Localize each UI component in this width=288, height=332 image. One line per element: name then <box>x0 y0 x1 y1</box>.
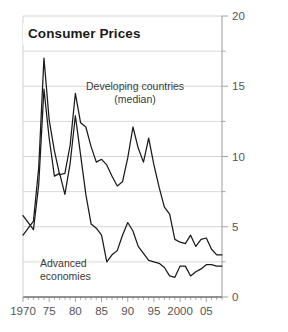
y-axis-tick-label: 5 <box>232 221 238 233</box>
y-axis-ticks <box>222 16 228 297</box>
annotation-developing-line2: (median) <box>86 93 184 106</box>
x-axis-tick-label: 05 <box>200 305 213 317</box>
chart-canvas <box>0 0 288 332</box>
consumer-prices-chart: Consumer Prices Developing countries (me… <box>0 0 288 332</box>
x-axis-ticks <box>23 297 222 302</box>
annotation-developing-countries: Developing countries (median) <box>86 80 184 105</box>
y-axis-tick-label: 0 <box>232 291 238 303</box>
annotation-developing-line1: Developing countries <box>86 80 184 92</box>
page-title: Consumer Prices <box>28 26 141 41</box>
y-axis-tick-label: 20 <box>232 10 245 22</box>
x-axis-tick-label: 90 <box>121 305 134 317</box>
annotation-advanced-line1: Advanced <box>40 257 87 269</box>
x-axis-tick-label: 80 <box>69 305 82 317</box>
x-axis-tick-label: 85 <box>95 305 108 317</box>
x-axis-tick-label: 75 <box>43 305 56 317</box>
y-axis-tick-label: 10 <box>232 151 245 163</box>
annotation-advanced-economies: Advanced economies <box>40 257 91 282</box>
x-axis-tick-label: 95 <box>148 305 161 317</box>
y-axis-tick-label: 15 <box>232 80 245 92</box>
chart-title-box: Consumer Prices <box>23 23 149 45</box>
x-axis-tick-label: 1970 <box>10 305 36 317</box>
gridlines <box>23 16 222 297</box>
annotation-advanced-line2: economies <box>40 270 91 283</box>
x-axis-tick-label: 2000 <box>167 305 193 317</box>
series-line-advanced-economies <box>23 89 222 277</box>
